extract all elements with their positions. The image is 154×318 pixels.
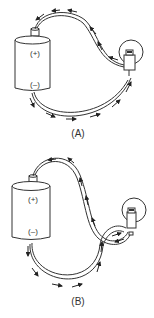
figure-a: (+) (–) (A) bbox=[15, 10, 143, 139]
figure-b-caption: (B) bbox=[71, 296, 84, 307]
circuit-diagram: (+) (–) (A) bbox=[0, 0, 154, 318]
figure-a-caption: (A) bbox=[71, 128, 84, 139]
positive-terminal-label: (+) bbox=[30, 49, 40, 58]
figure-b: (+) (–) bbox=[12, 158, 146, 307]
negative-terminal-label: (–) bbox=[30, 80, 40, 89]
light-bulb-icon bbox=[119, 40, 143, 76]
negative-terminal-label: (–) bbox=[28, 227, 38, 236]
light-bulb-icon bbox=[122, 198, 146, 235]
positive-terminal-label: (+) bbox=[28, 195, 38, 204]
